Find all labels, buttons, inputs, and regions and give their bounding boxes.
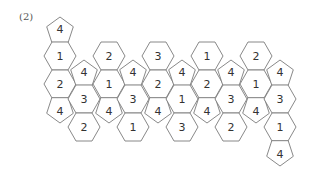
hexagon-face: 2: [68, 113, 100, 141]
face-number: 4: [81, 66, 88, 79]
pentagon-face: 4: [267, 60, 294, 85]
hexagon-face: 2: [240, 42, 272, 70]
face-number: 2: [81, 121, 88, 134]
pentagon-face: 4: [218, 60, 245, 85]
face-number: 4: [204, 105, 211, 118]
face-number: 1: [130, 121, 137, 134]
face-number: 4: [57, 23, 64, 36]
face-number: 4: [130, 66, 137, 79]
hexagon-face: 1: [264, 113, 296, 141]
face-number: 1: [253, 78, 260, 91]
face-number: 2: [57, 78, 64, 91]
hexagon-face: 2: [215, 113, 247, 141]
face-number: 1: [277, 121, 284, 134]
face-number: 4: [57, 105, 64, 118]
face-number: 3: [277, 93, 284, 106]
hexagon-face: 3: [166, 113, 198, 141]
polyhedron-net: 41244322144313244131244322144314: [0, 0, 312, 175]
pentagon-face: 4: [120, 60, 147, 85]
face-number: 1: [204, 50, 211, 63]
pentagon-face: 4: [169, 60, 196, 85]
hexagon-face: 1: [117, 113, 149, 141]
face-number: 2: [228, 121, 235, 134]
face-number: 1: [106, 78, 113, 91]
face-number: 2: [204, 78, 211, 91]
face-number: 2: [155, 78, 162, 91]
face-number: 2: [253, 50, 260, 63]
face-number: 4: [155, 105, 162, 118]
face-number: 3: [155, 50, 162, 63]
face-number: 4: [253, 105, 260, 118]
hexagon-face: 1: [191, 42, 223, 70]
hexagon-face: 2: [93, 42, 125, 70]
face-number: 3: [130, 93, 137, 106]
face-number: 3: [179, 121, 186, 134]
pentagon-face: 4: [267, 141, 294, 166]
pentagon-face: 4: [47, 17, 74, 42]
face-number: 4: [179, 66, 186, 79]
face-number: 3: [228, 93, 235, 106]
face-number: 4: [106, 105, 113, 118]
face-number: 1: [57, 50, 64, 63]
hexagon-face: 1: [44, 42, 76, 70]
hexagon-face: 3: [142, 42, 174, 70]
face-number: 4: [277, 148, 284, 161]
face-number: 1: [179, 93, 186, 106]
face-number: 4: [277, 66, 284, 79]
face-number: 3: [81, 93, 88, 106]
face-number: 4: [228, 66, 235, 79]
pentagon-face: 4: [71, 60, 98, 85]
face-number: 2: [106, 50, 113, 63]
